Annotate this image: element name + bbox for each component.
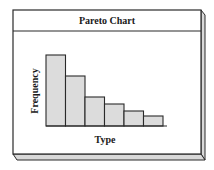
bar-6	[144, 116, 164, 126]
panel-right-bevel	[201, 10, 205, 160]
bar-3	[85, 97, 105, 126]
x-axis-label: Type	[95, 134, 116, 145]
bar-1	[46, 55, 66, 126]
bar-4	[105, 104, 125, 126]
bar-5	[124, 111, 144, 126]
bar-2	[66, 76, 86, 126]
pareto-chart-diagram: Pareto Chart Frequency Type	[0, 0, 214, 170]
panel-bottom-bevel	[13, 154, 205, 160]
y-axis-label: Frequency	[29, 68, 40, 113]
panel-title: Pareto Chart	[79, 15, 136, 26]
